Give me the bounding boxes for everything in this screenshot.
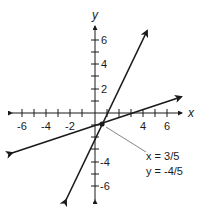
intersection-x-label: x = 3/5 <box>146 150 179 162</box>
coordinate-graph: -6 -4 -2 4 6 x 6 4 2 -4 -6 y <box>0 0 205 213</box>
shallow-line <box>12 97 181 153</box>
x-tick-label: -2 <box>65 120 75 132</box>
y-tick-label: 4 <box>101 58 107 70</box>
x-tick-label: -4 <box>41 120 51 132</box>
y-tick-label: -4 <box>100 156 110 168</box>
x-tick-label: 4 <box>140 120 146 132</box>
y-tick-label: -6 <box>100 180 110 192</box>
x-tick-label: -6 <box>17 120 27 132</box>
x-tick-label: 6 <box>164 120 170 132</box>
intersection-point <box>99 121 104 126</box>
y-axis: 6 4 2 -4 -6 y <box>91 8 110 200</box>
y-tick-label: 6 <box>101 34 107 46</box>
intersection-y-label: y = -4/5 <box>146 165 183 177</box>
steep-line <box>66 31 147 200</box>
y-tick-label: 2 <box>101 83 107 95</box>
y-axis-label: y <box>91 8 99 22</box>
x-axis: -6 -4 -2 4 6 x <box>12 106 195 132</box>
x-axis-label: x <box>187 106 195 120</box>
